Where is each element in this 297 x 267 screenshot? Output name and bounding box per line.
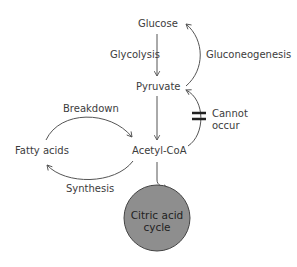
label-cannot-occur-line2: occur <box>212 120 240 132</box>
label-breakdown: Breakdown <box>63 103 119 115</box>
breakdown-arrow <box>46 117 132 140</box>
node-fatty-acids: Fatty acids <box>15 145 69 157</box>
gluconeogenesis-arrow <box>186 24 200 86</box>
node-pyruvate: Pyruvate <box>136 81 181 93</box>
label-gluconeogenesis: Gluconeogenesis <box>206 49 291 61</box>
label-synthesis: Synthesis <box>66 183 114 195</box>
node-glucose: Glucose <box>138 18 178 30</box>
node-citric-acid-cycle-line2: cycle <box>127 221 187 233</box>
label-glycolysis: Glycolysis <box>110 49 160 61</box>
label-cannot-occur-line1: Cannot <box>212 108 248 120</box>
synthesis-arrow <box>47 161 133 180</box>
node-acetyl-coa: Acetyl-CoA <box>132 145 186 157</box>
node-citric-acid-cycle-line1: Citric acid <box>127 209 187 221</box>
